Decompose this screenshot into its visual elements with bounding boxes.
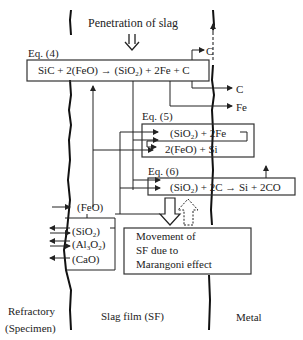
eq4-label: Eq. (4) xyxy=(28,47,59,59)
region-slag-film: Slag film (SF) xyxy=(101,310,164,322)
marangoni-line2: SF due to xyxy=(136,243,178,258)
oxide-sio2: (SiO2) xyxy=(72,225,100,237)
marangoni-line3: Marangoni effect xyxy=(136,257,212,272)
region-specimen: (Specimen) xyxy=(5,322,56,334)
eq6-label: Eq. (6) xyxy=(148,165,179,177)
up-dashed-arrow xyxy=(178,199,198,225)
product-fe: Fe xyxy=(236,101,247,113)
refractory-interface-line xyxy=(64,10,71,330)
eq5-line2: 2(FeO) + Si xyxy=(165,143,218,155)
penetration-of-slag-label: Penetration of slag xyxy=(88,17,178,29)
eq5-label: Eq. (5) xyxy=(142,110,173,122)
region-refractory: Refractory xyxy=(8,305,55,317)
marangoni-line1: Movement of xyxy=(136,229,196,244)
product-c-top: C xyxy=(206,45,213,57)
down-hollow-arrow xyxy=(160,198,180,225)
oxide-cao: (CaO) xyxy=(72,253,100,265)
oxide-al3o2: (Al3O2) xyxy=(72,238,105,250)
eq5-line1: (SiO2) + 2Fe xyxy=(170,127,226,139)
eq4-reaction: SiC + 2(FeO) → (SiO2) + 2Fe + C xyxy=(38,64,190,76)
oxide-feo: (FeO) xyxy=(77,201,103,213)
product-c: C xyxy=(236,83,243,95)
eq6-reaction: (SiO2) + 2C → Si + 2CO xyxy=(170,181,281,193)
region-metal: Metal xyxy=(236,311,262,323)
